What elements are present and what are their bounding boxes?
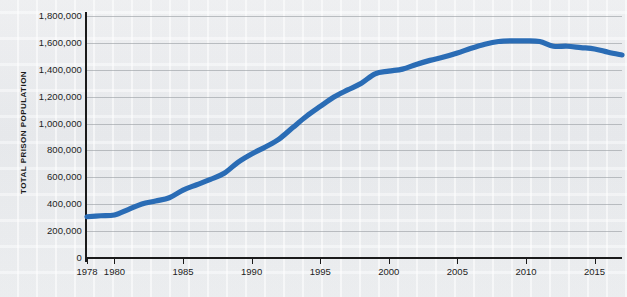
x-axis-tick-label: 1980 (104, 266, 125, 277)
gridline (87, 43, 622, 44)
x-axis-tick (389, 259, 390, 264)
x-axis-tick-label: 1985 (172, 266, 193, 277)
x-axis-tick (595, 259, 596, 264)
y-axis-tick-label: 1,400,000 (24, 64, 82, 75)
x-axis-line (85, 257, 622, 259)
gridline (87, 204, 622, 205)
x-axis-tick-label: 2015 (584, 266, 605, 277)
x-axis-tick-label: 1990 (241, 266, 262, 277)
x-axis-tick (457, 259, 458, 264)
y-axis-tick-label: 1,200,000 (24, 91, 82, 102)
plot-area (87, 16, 622, 258)
x-axis-tick (183, 259, 184, 264)
gridline (87, 97, 622, 98)
x-axis-tick-label: 1995 (310, 266, 331, 277)
gridline (87, 177, 622, 178)
y-axis-tick-label: 600,000 (24, 171, 82, 182)
gridline (87, 124, 622, 125)
x-axis-tick (87, 259, 88, 264)
gridline (87, 231, 622, 232)
gridline (87, 16, 622, 17)
y-axis-tick-label: 1,800,000 (24, 10, 82, 21)
y-axis-line (85, 12, 87, 262)
x-axis-tick-label: 2005 (447, 266, 468, 277)
y-axis-tick-label: 1,000,000 (24, 118, 82, 129)
y-axis-tick-label: 800,000 (24, 144, 82, 155)
x-axis-tick-label: 1978 (76, 266, 97, 277)
y-axis-tick-label: 1,600,000 (24, 37, 82, 48)
gridline (87, 70, 622, 71)
x-axis-tick-label: 2010 (515, 266, 536, 277)
gridline (87, 150, 622, 151)
y-axis-tick-label: 400,000 (24, 198, 82, 209)
y-axis-tick-labels: 1,800,0001,600,0001,400,0001,200,0001,00… (24, 0, 82, 297)
x-axis-tick (252, 259, 253, 264)
x-axis-tick (114, 259, 115, 264)
x-axis-tick (320, 259, 321, 264)
y-axis-tick-label: 0 (24, 252, 82, 263)
prison-population-line-chart: TOTAL PRISON POPULATION 1,800,0001,600,0… (0, 0, 627, 297)
x-axis-tick-label: 2000 (378, 266, 399, 277)
y-axis-tick-label: 200,000 (24, 225, 82, 236)
x-axis-tick (526, 259, 527, 264)
